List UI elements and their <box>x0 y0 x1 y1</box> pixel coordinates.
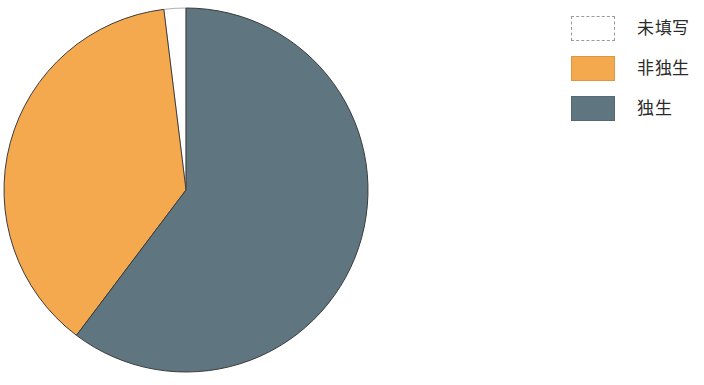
legend-item-non-only-child[interactable]: 非独生 <box>571 48 701 88</box>
chart-legend: 未填写 非独生 独生 <box>571 8 701 128</box>
legend-swatch-unfilled <box>571 16 615 41</box>
legend-label-only-child: 独生 <box>637 100 672 117</box>
legend-swatch-non-only-child <box>571 56 615 81</box>
pie-plot-area <box>0 0 380 385</box>
legend-item-unfilled[interactable]: 未填写 <box>571 8 701 48</box>
legend-label-non-only-child: 非独生 <box>637 60 690 77</box>
legend-label-unfilled: 未填写 <box>637 20 690 37</box>
legend-item-only-child[interactable]: 独生 <box>571 88 701 128</box>
pie-chart-figure: 未填写 非独生 独生 <box>0 0 704 385</box>
pie-slices-group <box>4 8 368 372</box>
pie-svg <box>0 0 380 385</box>
legend-swatch-only-child <box>571 96 615 121</box>
